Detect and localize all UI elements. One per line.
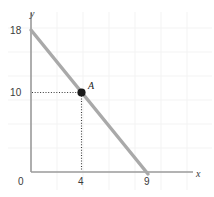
chart-plot-area [0, 0, 214, 197]
data-point-label-a: A [88, 80, 94, 91]
y-axis-tick-label-10: 10 [10, 87, 22, 98]
x-axis-tick-label-0: 0 [18, 176, 24, 187]
x-axis-name: x [196, 168, 200, 179]
y-axis-name: y [30, 8, 34, 19]
data-point-marker-a [77, 88, 85, 96]
chart-figure: 18 10 0 4 9 y x A [0, 0, 214, 197]
x-axis-tick-label-9: 9 [144, 176, 150, 187]
x-axis-tick-label-4: 4 [78, 176, 84, 187]
y-axis-tick-label-18: 18 [10, 25, 22, 36]
